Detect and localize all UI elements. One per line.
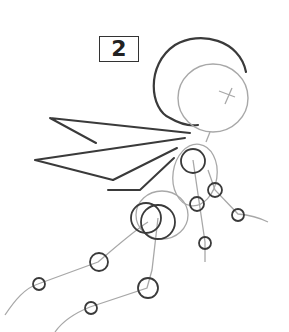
- leg-left: [5, 222, 148, 315]
- figure-sketch: [0, 0, 289, 332]
- joint-hip-left: [131, 203, 161, 233]
- wing-middle: [35, 138, 185, 180]
- hair-arc: [154, 38, 246, 125]
- joint-knee-right: [138, 278, 158, 298]
- wing-lower-2: [108, 158, 174, 190]
- head-crosshair: [219, 88, 235, 104]
- head-circle: [178, 64, 248, 132]
- wing-upper: [50, 118, 190, 143]
- leg-right: [55, 218, 158, 332]
- neck: [206, 132, 210, 142]
